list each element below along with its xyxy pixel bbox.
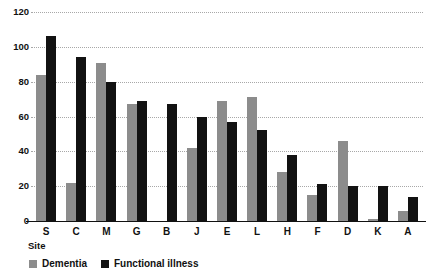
x-tick-label-B: B bbox=[152, 224, 182, 240]
bar-S-functional bbox=[46, 36, 56, 221]
legend-swatch-black bbox=[101, 260, 109, 268]
y-tick-label-40: 40 bbox=[1, 146, 29, 156]
x-tick-label-A: A bbox=[393, 224, 423, 240]
chart-legend: DementiaFunctional illness bbox=[29, 258, 198, 269]
bar-group-D bbox=[333, 12, 363, 221]
x-tick-label-C: C bbox=[61, 224, 91, 240]
bar-groups bbox=[31, 12, 423, 221]
bar-group-S bbox=[31, 12, 61, 221]
bar-C-dementia bbox=[66, 183, 76, 221]
x-tick-label-S: S bbox=[31, 224, 61, 240]
bar-M-dementia bbox=[96, 63, 106, 221]
y-tick-label-60: 60 bbox=[1, 112, 29, 122]
x-axis-title: Site bbox=[28, 240, 45, 251]
bar-E-dementia bbox=[217, 101, 227, 221]
bar-E-functional bbox=[227, 122, 237, 221]
bar-group-G bbox=[121, 12, 151, 221]
y-tick-label-0: 0 bbox=[1, 216, 29, 226]
x-tick-label-E: E bbox=[212, 224, 242, 240]
bar-G-functional bbox=[137, 101, 147, 221]
bar-F-dementia bbox=[307, 195, 317, 221]
y-tick-label-100: 100 bbox=[1, 42, 29, 52]
bar-A-functional bbox=[408, 197, 418, 221]
bar-K-functional bbox=[378, 186, 388, 221]
y-tick-label-120: 120 bbox=[1, 7, 29, 17]
y-axis-labels: 020406080100120 bbox=[0, 0, 29, 278]
y-tick-label-80: 80 bbox=[1, 77, 29, 87]
x-tick-label-D: D bbox=[333, 224, 363, 240]
bar-group-K bbox=[363, 12, 393, 221]
bar-group-B bbox=[152, 12, 182, 221]
bar-L-functional bbox=[257, 130, 267, 221]
bar-group-H bbox=[272, 12, 302, 221]
x-axis-labels: SCMGBJELHFDKA bbox=[31, 224, 423, 240]
bar-F-functional bbox=[317, 184, 327, 221]
bar-H-dementia bbox=[277, 172, 287, 221]
x-tick-label-L: L bbox=[242, 224, 272, 240]
bar-group-C bbox=[61, 12, 91, 221]
bar-D-functional bbox=[348, 186, 358, 221]
bar-chart-figure: 020406080100120 SCMGBJELHFDKA Site Demen… bbox=[0, 0, 431, 278]
bar-group-A bbox=[393, 12, 423, 221]
x-tick-label-G: G bbox=[121, 224, 151, 240]
bar-group-L bbox=[242, 12, 272, 221]
bar-G-dementia bbox=[127, 104, 137, 221]
bar-B-functional bbox=[167, 104, 177, 221]
bar-S-dementia bbox=[36, 75, 46, 221]
bar-group-F bbox=[302, 12, 332, 221]
bar-J-dementia bbox=[187, 148, 197, 221]
bar-A-dementia bbox=[398, 211, 408, 221]
legend-swatch-gray bbox=[29, 260, 37, 268]
x-axis-line bbox=[26, 221, 426, 222]
bar-M-functional bbox=[106, 82, 116, 221]
bar-L-dementia bbox=[247, 97, 257, 221]
legend-label: Dementia bbox=[42, 258, 87, 269]
legend-item-functional-illness: Functional illness bbox=[101, 258, 198, 269]
x-tick-label-J: J bbox=[182, 224, 212, 240]
bar-group-M bbox=[91, 12, 121, 221]
bar-D-dementia bbox=[338, 141, 348, 221]
legend-item-dementia: Dementia bbox=[29, 258, 87, 269]
x-tick-label-M: M bbox=[91, 224, 121, 240]
bar-C-functional bbox=[76, 57, 86, 221]
bar-J-functional bbox=[197, 117, 207, 222]
legend-label: Functional illness bbox=[114, 258, 198, 269]
y-tick-label-20: 20 bbox=[1, 181, 29, 191]
bar-group-E bbox=[212, 12, 242, 221]
bar-H-functional bbox=[287, 155, 297, 221]
x-tick-label-H: H bbox=[272, 224, 302, 240]
bar-group-J bbox=[182, 12, 212, 221]
x-tick-label-F: F bbox=[302, 224, 332, 240]
x-tick-label-K: K bbox=[363, 224, 393, 240]
